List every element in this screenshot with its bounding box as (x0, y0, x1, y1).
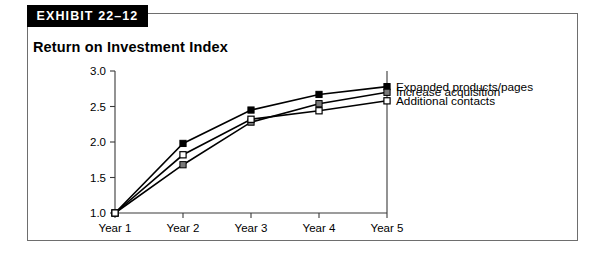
x-axis-tick-label: Year 2 (167, 222, 200, 234)
data-point-marker (248, 107, 254, 113)
data-point-marker (112, 210, 118, 216)
line-chart: 1.01.52.02.53.0Year 1Year 2Year 3Year 4Y… (27, 13, 578, 241)
exhibit-figure: EXHIBIT 22–12 Return on Investment Index… (0, 0, 605, 261)
data-point-marker (384, 98, 390, 104)
data-point-marker (180, 140, 186, 146)
y-axis-tick-label: 2.0 (90, 136, 106, 148)
data-point-marker (316, 108, 322, 114)
x-axis-tick-label: Year 5 (371, 222, 404, 234)
y-axis-tick-label: 1.5 (90, 172, 106, 184)
x-axis-tick-label: Year 4 (303, 222, 336, 234)
x-axis-tick-label: Year 1 (99, 222, 132, 234)
data-point-marker (180, 152, 186, 158)
y-axis-tick-label: 3.0 (90, 65, 106, 77)
data-point-marker (180, 162, 186, 168)
data-point-marker (384, 89, 390, 95)
x-axis-tick-label: Year 3 (235, 222, 268, 234)
chart-plot-area: 1.01.52.02.53.0Year 1Year 2Year 3Year 4Y… (27, 13, 578, 241)
data-point-marker (248, 116, 254, 122)
data-point-marker (316, 91, 322, 97)
y-axis-tick-label: 2.5 (90, 101, 106, 113)
series-line-0 (115, 87, 387, 213)
legend-label-2[interactable]: Additional contacts (396, 94, 495, 108)
data-point-marker (316, 101, 322, 107)
y-axis-tick-label: 1.0 (90, 207, 106, 219)
